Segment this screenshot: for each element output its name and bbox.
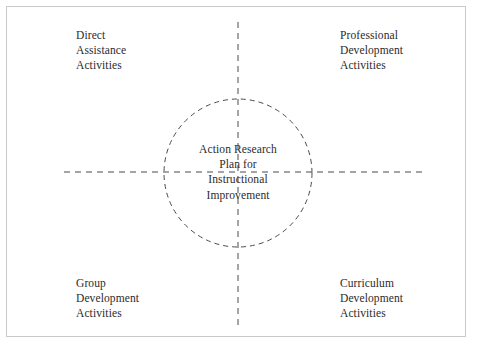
quadrant-group-development: Group Development Activities: [76, 276, 139, 322]
diagram-root: Direct Assistance Activities Professiona…: [0, 0, 477, 348]
quadrant-direct-assistance: Direct Assistance Activities: [76, 28, 126, 74]
quadrant-professional-development: Professional Development Activities: [340, 28, 403, 74]
center-node-label: Action Research Plan for Instructional I…: [168, 142, 308, 203]
quadrant-curriculum-development: Curriculum Development Activities: [340, 276, 403, 322]
